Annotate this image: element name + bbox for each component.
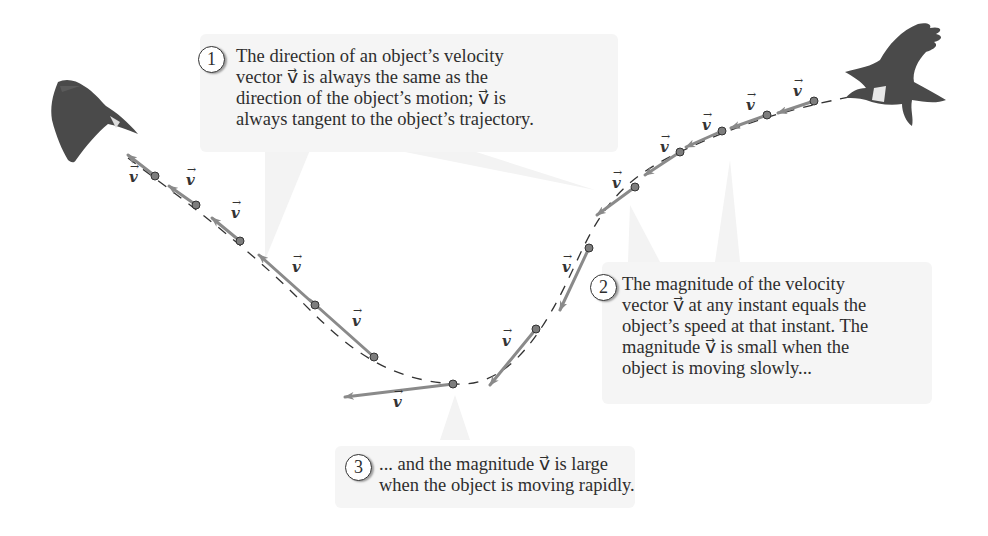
point-1 (810, 97, 818, 105)
point-12 (192, 201, 200, 209)
vector-label: →v (702, 116, 711, 134)
pointer-1b (395, 150, 595, 190)
point-2 (763, 111, 771, 119)
vector-label: →v (793, 82, 802, 100)
callout-number-2: 2 (590, 274, 617, 301)
callout-3: 3 ... and the magnitude v⃗ is large when… (335, 446, 635, 508)
point-10 (311, 301, 319, 309)
point-6 (585, 244, 593, 252)
pointer-1a (265, 150, 310, 260)
point-11 (236, 237, 244, 245)
callout-2-text: The magnitude of the velocity vector v⃗ … (622, 274, 868, 379)
point-4 (676, 148, 684, 156)
pointer-2b (628, 205, 660, 262)
point-7 (532, 325, 540, 333)
point-13 (151, 172, 159, 180)
callout-number-1: 1 (198, 46, 225, 73)
velocity-arrow-2 (731, 115, 767, 128)
callout-2: 2 The magnitude of the velocity vector v… (602, 262, 932, 404)
point-9 (370, 353, 378, 361)
vector-label: →v (612, 174, 621, 192)
vector-label: →v (352, 312, 361, 330)
velocity-arrow-7 (490, 329, 536, 385)
vector-label: →v (393, 393, 402, 411)
pointer-3 (440, 395, 470, 440)
point-8 (449, 380, 457, 388)
vector-label: →v (186, 171, 195, 189)
vector-label: →v (129, 168, 138, 186)
pointer-2a (715, 160, 740, 262)
callout-1: 1 The direction of an object’s velocity … (200, 34, 618, 152)
callout-3-text: ... and the magnitude v⃗ is large when t… (379, 454, 635, 496)
callout-1-text: The direction of an object’s velocity ve… (236, 46, 534, 130)
vector-label: →v (292, 258, 301, 276)
velocity-arrow-1 (778, 101, 814, 113)
vector-label: →v (660, 138, 669, 156)
callout-number-3: 3 (345, 454, 372, 481)
velocity-arrow-9 (310, 300, 374, 357)
hawk-left-icon (51, 80, 138, 162)
point-3 (718, 127, 726, 135)
velocity-arrow-10 (259, 255, 315, 305)
vector-label: →v (562, 258, 571, 276)
point-5 (631, 183, 639, 191)
vector-label: →v (746, 96, 755, 114)
vector-label: →v (231, 204, 240, 222)
vector-label: →v (502, 332, 511, 350)
hawk-right-icon (845, 23, 946, 126)
